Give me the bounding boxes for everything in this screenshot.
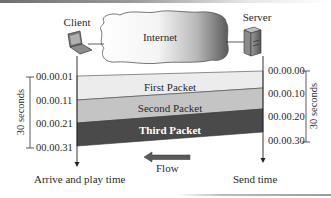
laptop-icon [68,31,92,54]
client-time-3: 00.00.21 [36,118,73,129]
packet-label-first: First Packet [144,81,196,93]
client-label: Client [64,16,91,28]
flow-label: Flow [156,162,179,174]
client-time-1: 00.00.01 [36,71,73,82]
server-axis-label: Send time [233,173,277,185]
streaming-timeline-diagram: Internet Client Server First Packet Seco… [0,0,331,198]
server-time-4: 00.00.30 [268,135,305,146]
internet-label: Internet [143,31,177,43]
left-span-bracket [26,77,34,148]
server-time-3: 00.00.20 [268,111,305,122]
client-axis-arrow-icon [75,162,80,167]
client-time-4: 00.00.31 [36,142,73,153]
server-axis-arrow-icon [261,158,266,163]
packet-label-second: Second Packet [138,102,202,114]
internet-cloud: Internet [101,11,229,64]
server-label: Server [243,11,272,23]
server-time-2: 00.00.10 [268,88,305,99]
client-time-2: 00.00.11 [36,95,72,106]
server-icon [244,27,261,56]
client-axis-label: Arrive and play time [34,173,125,185]
packet-label-third: Third Packet [139,124,201,136]
flow-arrow-icon [144,152,190,162]
server-time-1: 00.00.00 [268,65,305,76]
right-span-label: 30 seconds [308,83,319,129]
left-span-label: 30 seconds [15,89,26,135]
